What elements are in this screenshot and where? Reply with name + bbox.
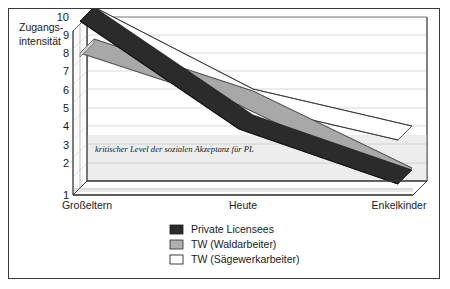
- x-category-enkelkinder: Enkelkinder: [372, 199, 427, 211]
- y-tick-5: 5: [63, 102, 69, 114]
- y-tick-8: 8: [63, 47, 69, 59]
- legend-label-tw-waldarbeiter: TW (Waldarbeiter): [191, 238, 276, 250]
- y-tick-3: 3: [63, 139, 69, 151]
- x-category-heute: Heute: [229, 199, 257, 211]
- legend-item-tw-waldarbeiter[interactable]: TW (Waldarbeiter): [170, 238, 276, 250]
- legend-label-private-licensees: Private Licensees: [191, 223, 274, 235]
- legend-label-tw-saegewerkarbeiter: TW (Sägewerkarbeiter): [191, 253, 300, 265]
- chart-frame: 10 9 8 7 6 5 4 3 2 1 Zugangs- intensität: [8, 8, 440, 279]
- x-category-grosseltern: Großeltern: [62, 199, 112, 211]
- legend-item-private-licensees[interactable]: Private Licensees: [170, 223, 274, 235]
- y-tick-2: 2: [63, 157, 69, 169]
- y-tick-6: 6: [63, 84, 69, 96]
- legend-swatch-tw-saegewerkarbeiter: [170, 255, 183, 264]
- legend-swatch-private-licensees: [170, 225, 183, 234]
- y-axis-title-line1: Zugangs-: [19, 21, 64, 33]
- line-chart-svg: 10 9 8 7 6 5 4 3 2 1 Zugangs- intensität: [9, 9, 441, 280]
- chart-legend: Private Licensees TW (Waldarbeiter) TW (…: [170, 223, 300, 265]
- y-tick-4: 4: [63, 120, 69, 132]
- y-axis-title-line2: intensität: [19, 35, 61, 47]
- legend-swatch-tw-waldarbeiter: [170, 240, 183, 249]
- y-tick-9: 9: [63, 29, 69, 41]
- y-tick-7: 7: [63, 65, 69, 77]
- chart-canvas: 10 9 8 7 6 5 4 3 2 1 Zugangs- intensität: [9, 9, 441, 280]
- floor-outline: [73, 181, 427, 195]
- legend-item-tw-saegewerkarbeiter[interactable]: TW (Sägewerkarbeiter): [170, 253, 300, 265]
- critical-level-annotation: kritischer Level der sozialen Akzeptanz …: [95, 144, 254, 154]
